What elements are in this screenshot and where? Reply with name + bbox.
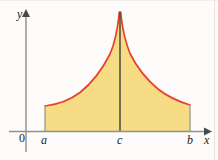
- y-axis-label: y: [17, 8, 22, 20]
- singularity-label-c: c: [117, 134, 122, 146]
- improper-integral-figure: y x 0 a c b: [0, 0, 218, 160]
- upper-limit-label-b: b: [187, 134, 193, 146]
- lower-limit-label-a: a: [41, 134, 47, 146]
- y-axis-arrow-icon: [22, 9, 30, 17]
- x-axis-label: x: [204, 134, 209, 146]
- origin-label: 0: [19, 132, 25, 144]
- plot-canvas: [0, 0, 218, 160]
